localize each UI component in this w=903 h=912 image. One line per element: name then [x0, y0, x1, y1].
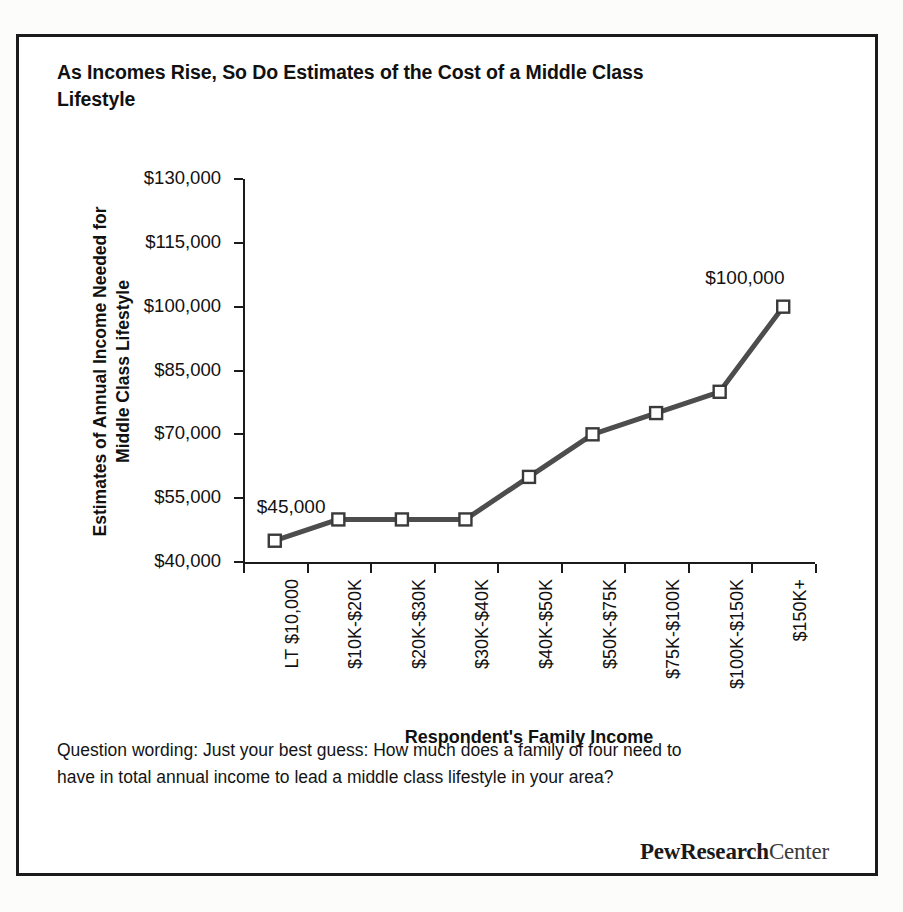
- x-tick-mark: [751, 564, 753, 573]
- x-tick-label: LT $10,000: [282, 579, 303, 668]
- y-tick-mark: $100,000: [234, 306, 243, 308]
- series-polyline: [275, 307, 783, 541]
- data-point-marker: [523, 471, 535, 483]
- x-tick-label: $40K-$50K: [536, 579, 557, 669]
- pew-research-center-logo: PewResearchCenter: [640, 839, 829, 865]
- data-point-marker: [396, 513, 408, 525]
- logo-light-text: Center: [769, 839, 829, 864]
- data-series-line: [243, 179, 815, 564]
- data-point-marker: [269, 535, 281, 547]
- x-tick-mark: [497, 564, 499, 573]
- chart-card-frame: As Incomes Rise, So Do Estimates of the …: [16, 34, 878, 876]
- data-point-marker: [332, 513, 344, 525]
- y-tick-label: $100,000: [144, 295, 221, 317]
- logo-bold-text: PewResearch: [640, 839, 769, 864]
- data-point-value-label: $45,000: [257, 496, 326, 518]
- y-tick-mark: $55,000: [234, 497, 243, 499]
- x-tick-label: $10K-$20K: [345, 579, 366, 669]
- y-tick-mark: $70,000: [234, 433, 243, 435]
- data-point-value-label: $100,000: [705, 267, 784, 289]
- y-tick-mark: $85,000: [234, 370, 243, 372]
- x-tick-mark: [561, 564, 563, 573]
- x-tick-label: $100K-$150K: [727, 579, 748, 689]
- page-background: As Incomes Rise, So Do Estimates of the …: [0, 0, 903, 912]
- y-tick-mark: $40,000: [234, 561, 243, 563]
- data-point-marker: [459, 513, 471, 525]
- y-tick-label: $70,000: [154, 422, 221, 444]
- y-tick-mark: $130,000: [234, 178, 243, 180]
- data-point-marker: [714, 386, 726, 398]
- x-tick-mark: [307, 564, 309, 573]
- y-axis-title: Estimates of Annual Income Needed for Mi…: [89, 179, 135, 564]
- x-tick-mark: [815, 564, 817, 573]
- y-tick-mark: $115,000: [234, 242, 243, 244]
- page-title: As Incomes Rise, So Do Estimates of the …: [57, 59, 657, 113]
- y-tick-label: $85,000: [154, 359, 221, 381]
- y-tick-label: $40,000: [154, 550, 221, 572]
- x-tick-label: $30K-$40K: [472, 579, 493, 669]
- data-point-marker: [777, 301, 789, 313]
- x-tick-label: $20K-$30K: [409, 579, 430, 669]
- x-tick-label: $50K-$75K: [600, 579, 621, 669]
- plot-area: $40,000$55,000$70,000$85,000$100,000$115…: [243, 179, 815, 564]
- data-point-marker: [587, 428, 599, 440]
- x-tick-label: $150K+: [790, 579, 811, 642]
- x-tick-mark: [624, 564, 626, 573]
- y-tick-label: $130,000: [144, 167, 221, 189]
- x-tick-mark: [243, 564, 245, 573]
- x-tick-mark: [688, 564, 690, 573]
- x-tick-mark: [370, 564, 372, 573]
- x-tick-mark: [434, 564, 436, 573]
- x-tick-label: $75K-$100K: [663, 579, 684, 679]
- footnote-question-wording: Question wording: Just your best guess: …: [57, 737, 717, 791]
- data-point-marker: [650, 407, 662, 419]
- y-tick-label: $55,000: [154, 486, 221, 508]
- y-tick-label: $115,000: [145, 231, 221, 253]
